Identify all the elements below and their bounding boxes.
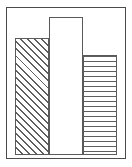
plot-frame: 119 141 101 (6, 7, 126, 159)
bar-3: 101 (83, 55, 117, 155)
bar-chart: 119 141 101 (0, 0, 132, 167)
bar-1: 119 (15, 38, 49, 155)
bar-1-value: 119 (15, 38, 16, 39)
bar-3-value: 101 (83, 55, 84, 56)
bar-2-value: 141 (49, 17, 50, 18)
bar-2: 141 (49, 17, 83, 155)
